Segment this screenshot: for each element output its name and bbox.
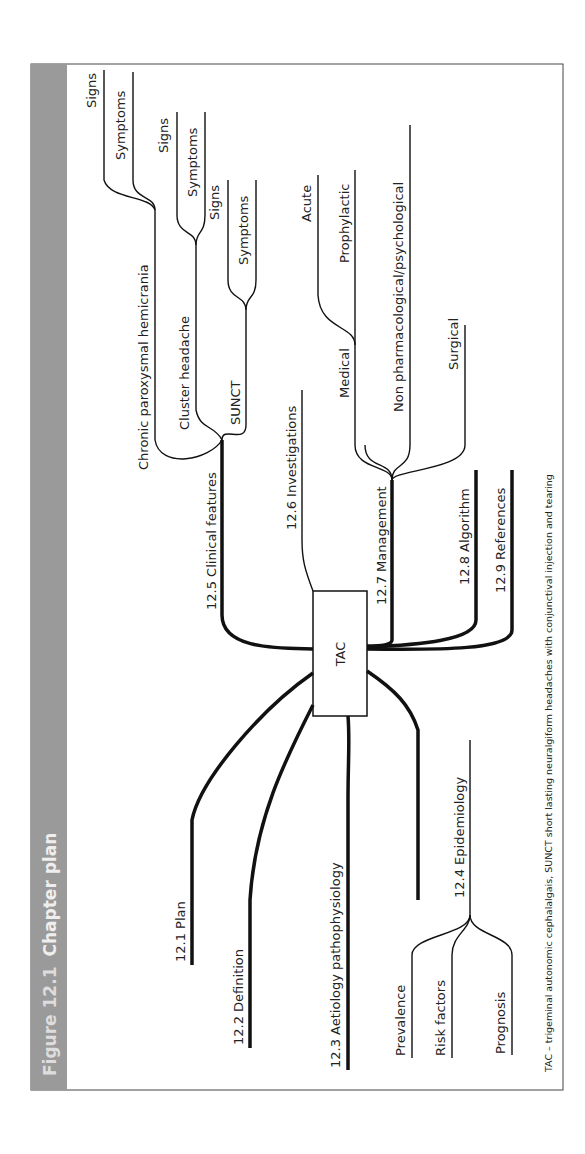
figure-frame (31, 64, 563, 1090)
cluster-symptoms: Symptoms (185, 127, 200, 197)
cluster-signs: Signs (156, 118, 171, 153)
branch-aetiology-line (348, 716, 349, 1070)
branch-management: 12.7 Management (374, 486, 389, 605)
branch-definition: 12.2 Definition (231, 949, 246, 1045)
clinical-cph: Chronic paroxysmal hemicrania (136, 264, 151, 470)
sunct-symptoms: Symptoms (236, 195, 251, 265)
sunct-signs: Signs (207, 185, 222, 220)
center-label: TAC (333, 642, 348, 668)
mgmt-medical: Medical (337, 348, 352, 398)
epi-prognosis: Prognosis (493, 992, 508, 1054)
medical-acute: Acute (299, 185, 314, 222)
medical-prophylactic: Prophylactic (337, 184, 352, 263)
cph-signs: Signs (84, 73, 99, 108)
figure-title: Figure 12.1Chapter plan (40, 833, 60, 1076)
branch-references: 12.9 References (493, 487, 508, 593)
mgmt-nonpharm: Non pharmacological/psychological (391, 182, 406, 412)
mind-map-figure: Figure 12.1Chapter plan TAC – trigeminal… (0, 0, 585, 1154)
clinical-sunct: SUNCT (228, 380, 243, 425)
branch-investigations: 12.6 Investigations (284, 406, 299, 530)
cph-symptoms: Symptoms (113, 90, 128, 160)
branch-plan: 12.1 Plan (173, 901, 188, 962)
mgmt-surgical: Surgical (446, 318, 461, 370)
clinical-cluster: Cluster headache (177, 316, 192, 430)
branch-algorithm: 12.8 Algorithm (457, 488, 472, 585)
figure-caption: TAC – trigeminal autonomic cephalalgais,… (543, 474, 554, 1073)
branch-aetiology: 12.3 Aetiology pathophysiology (328, 862, 343, 1068)
epi-risk-factors: Risk factors (433, 980, 448, 1056)
branch-epidemiology: 12.4 Epidemiology (452, 777, 467, 898)
epi-prevalence: Prevalence (393, 985, 408, 1056)
branch-clinical: 12.5 Clinical features (204, 472, 219, 610)
